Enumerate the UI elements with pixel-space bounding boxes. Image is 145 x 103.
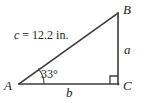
side-label-b: b xyxy=(66,86,73,99)
side-label-a: a xyxy=(124,43,131,56)
vertex-label-c: C xyxy=(123,79,132,92)
hypotenuse-value: 12.2 xyxy=(32,28,53,42)
angle-label-a: 33° xyxy=(41,68,58,80)
right-angle-marker-icon xyxy=(110,76,118,84)
side-c-hypotenuse-line xyxy=(19,13,118,84)
vertex-label-b: B xyxy=(123,3,131,16)
vertex-label-a: A xyxy=(4,79,12,92)
right-triangle-figure: A B C a b c = 12.2 in. 33° xyxy=(0,0,145,103)
hypotenuse-label: c = 12.2 in. xyxy=(14,29,68,41)
hypotenuse-unit: in. xyxy=(56,28,68,42)
